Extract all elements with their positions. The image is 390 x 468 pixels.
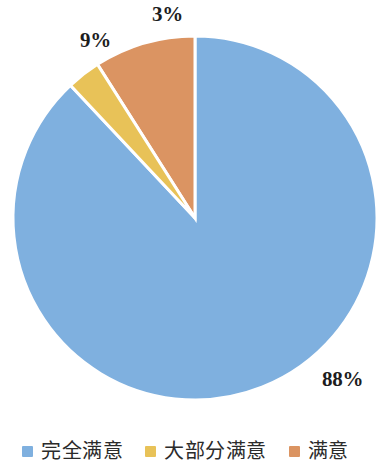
pie-chart-plot-area: 88% 3% 9%	[0, 0, 390, 412]
chart-legend: 完全满意 大部分满意 满意	[0, 434, 390, 468]
legend-item-manyi[interactable]: 满意	[289, 441, 349, 461]
legend-label-wanquanmanyi: 完全满意	[41, 441, 123, 461]
pie-value-label-wanquanmanyi: 88%	[322, 367, 363, 392]
pie-slices	[13, 36, 377, 400]
pie-chart-figure: 88% 3% 9% 完全满意 大部分满意 满意	[0, 0, 390, 468]
legend-item-wanquanmanyi[interactable]: 完全满意	[22, 441, 123, 461]
pie-value-label-manyi: 9%	[80, 28, 111, 53]
legend-label-manyi: 满意	[308, 441, 349, 461]
legend-swatch-icon-manyi	[289, 446, 300, 457]
pie-value-label-dabufenmanyi: 3%	[152, 2, 183, 27]
legend-label-dabufenmanyi: 大部分满意	[164, 441, 267, 461]
legend-item-dabufenmanyi[interactable]: 大部分满意	[145, 441, 267, 461]
legend-swatch-icon-dabufenmanyi	[145, 446, 156, 457]
pie-chart-svg	[0, 0, 390, 412]
legend-swatch-icon-wanquanmanyi	[22, 446, 33, 457]
